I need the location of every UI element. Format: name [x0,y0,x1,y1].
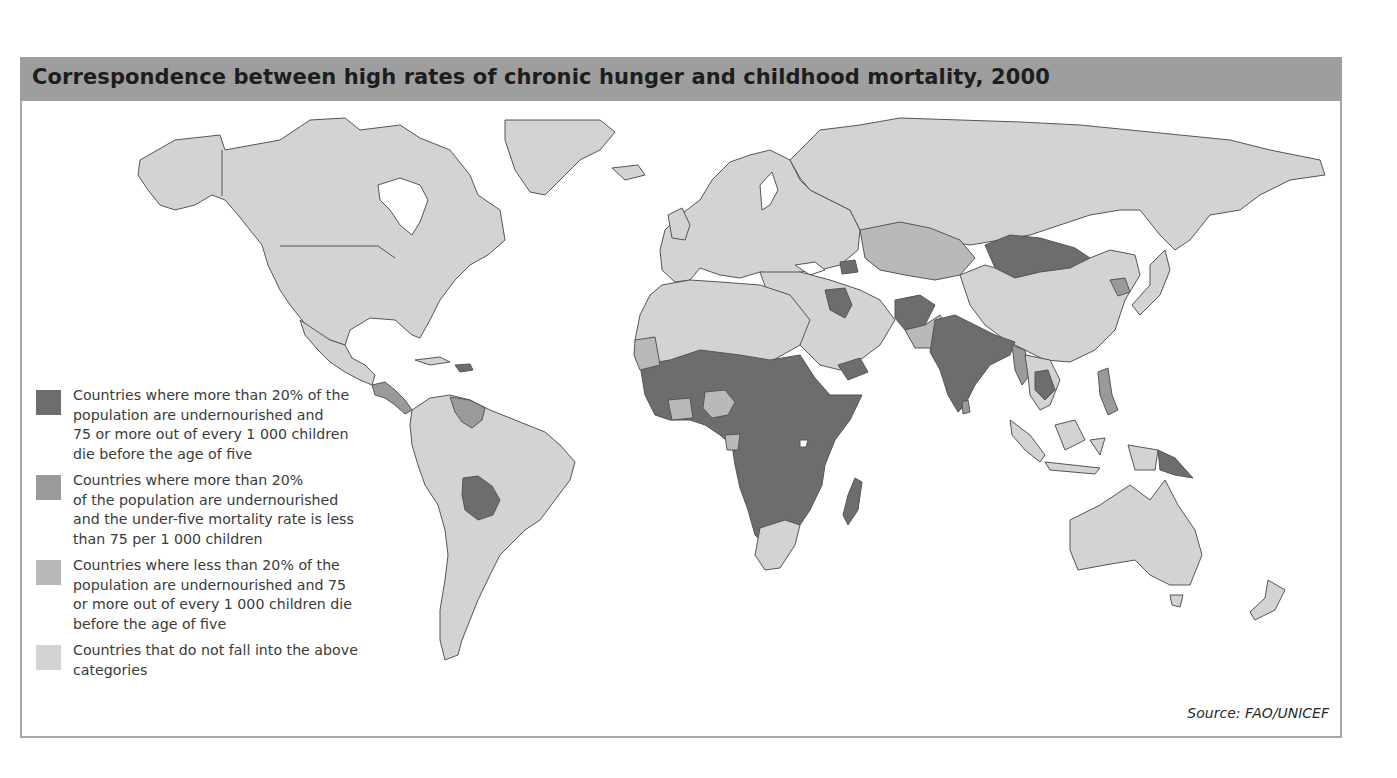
region-tasmania [1170,595,1183,607]
page-title: Correspondence between high rates of chr… [32,65,1050,89]
title-bar: Correspondence between high rates of chr… [20,57,1342,101]
region-south-africa [755,520,800,570]
legend-item-low-hunger-high-mortality: Countries where less than 20% of the pop… [36,556,376,634]
legend-item-high-hunger-high-mortality: Countries where more than 20% of the pop… [36,386,376,464]
legend-swatch-medium [36,475,61,500]
region-png [1158,450,1193,478]
region-japan [1132,250,1170,315]
source-credit: Source: FAO/UNICEF [1187,705,1329,721]
region-ghana [668,398,693,420]
region-new-zealand [1250,580,1285,620]
region-south-america [410,395,575,660]
region-gabon [725,434,740,450]
legend-label: Countries that do not fall into the abov… [73,641,376,680]
region-haiti [455,364,473,372]
region-greenland [505,120,615,195]
region-caucasus [840,260,858,274]
region-sub-saharan-africa [640,350,862,545]
region-north-america [138,118,505,345]
region-central-america [372,382,412,414]
legend-label: Countries where more than 20% of the pop… [73,386,376,464]
region-mauritania [634,337,660,370]
legend-swatch-light [36,560,61,585]
region-papua [1128,445,1158,470]
region-madagascar [843,478,862,525]
region-australia [1070,480,1202,585]
legend-swatch-dark [36,390,61,415]
legend-item-other: Countries that do not fall into the abov… [36,641,376,680]
region-philippines [1098,368,1118,415]
legend-swatch-lightest [36,645,61,670]
legend-label: Countries where less than 20% of the pop… [73,556,376,634]
region-iceland [612,165,645,180]
region-indonesia [1010,420,1105,474]
legend-item-high-hunger-low-mortality: Countries where more than 20% of the pop… [36,471,376,549]
map-legend: Countries where more than 20% of the pop… [36,386,376,687]
legend-label: Countries where more than 20% of the pop… [73,471,376,549]
region-sri-lanka [962,400,970,414]
